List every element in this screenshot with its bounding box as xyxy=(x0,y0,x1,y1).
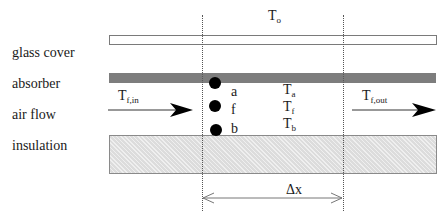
absorber-temperature-label: Ta xyxy=(283,83,296,97)
inlet-flow-arrow-icon xyxy=(108,103,193,117)
node-b-letter: b xyxy=(231,122,238,136)
arrows-layer xyxy=(0,0,447,220)
bottom-temperature-label: Tb xyxy=(283,117,296,131)
node-b-dot xyxy=(210,124,222,136)
outlet-temperature-label: Tf,out xyxy=(362,89,387,103)
node-f-dot xyxy=(209,100,221,112)
inlet-temperature-label: Tf,in xyxy=(118,89,139,103)
outlet-flow-arrow-icon xyxy=(352,103,436,117)
node-f-letter: f xyxy=(231,103,236,117)
node-a-dot xyxy=(209,77,221,89)
delta-x-dimension-icon xyxy=(203,193,342,203)
fluid-temperature-label: Tf xyxy=(283,100,295,114)
node-a-letter: a xyxy=(231,85,237,99)
delta-x-label: Δx xyxy=(286,183,302,197)
